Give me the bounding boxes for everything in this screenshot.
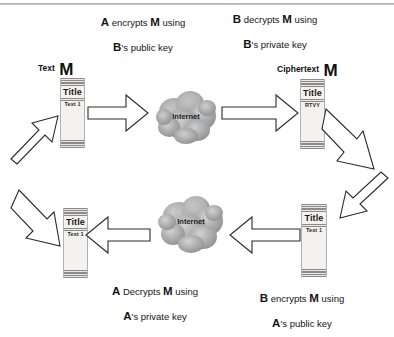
arrow-into-plaintext-doc (8, 104, 66, 164)
internet-cloud-label: Internet (155, 217, 227, 226)
arrow-receive-from-internet-top (222, 93, 300, 133)
internet-cloud-label: Internet (152, 112, 220, 121)
caption-b-decrypts-line1: B decrypts M using (205, 13, 345, 25)
arrow-send-to-internet-top (88, 93, 150, 133)
message-m: M (282, 13, 292, 25)
message-m: M (309, 292, 319, 304)
actor-a: A (123, 310, 131, 322)
caption-b-encrypts-line1: B encrypts M using (232, 292, 372, 304)
arrow-send-to-internet-bottom (230, 215, 302, 255)
caption-a-encrypts-line2: B's public key (78, 41, 208, 53)
doc-title: Title (303, 87, 322, 99)
label-ciphertext-kind: Ciphertext (277, 64, 319, 74)
caption-a-decrypts-line1: A Decrypts M using (85, 285, 225, 297)
label-plaintext-symbol: M (59, 60, 73, 79)
doc-title: Title (63, 86, 82, 98)
caption-b-encrypts-line2: A's public key (232, 317, 372, 329)
actor-a: A (101, 16, 109, 28)
caption-b-decrypts-line2: B's private key (205, 38, 345, 50)
arrow-receive-from-internet-bottom (86, 215, 152, 255)
internet-cloud-bottom: Internet (155, 192, 227, 258)
caption-a-encrypts-line1: A encrypts M using (78, 16, 208, 28)
message-m: M (150, 16, 160, 28)
internet-cloud-top: Internet (152, 86, 220, 150)
doc-rule (301, 144, 324, 149)
document-plaintext-returned: Title Text 1 (301, 204, 327, 277)
caption-a-encrypts: A encrypts M using B's public key (78, 16, 208, 53)
caption-a-decrypts-line2: A's private key (85, 310, 225, 322)
doc-rule (64, 273, 87, 278)
doc-body: RTVY (305, 102, 320, 108)
cryptography-diagram: A encrypts M using B's public key B decr… (0, 0, 394, 337)
top-rule-divider (0, 3, 394, 5)
caption-b-encrypts: B encrypts M using A's public key (232, 292, 372, 329)
actor-b: B (233, 13, 241, 25)
arrow-into-returned-doc (330, 176, 392, 238)
label-ciphertext-message: Ciphertext M (277, 61, 338, 81)
doc-body: Text 1 (64, 101, 80, 107)
label-ciphertext-symbol: M (324, 61, 338, 80)
actor-b: B (243, 38, 251, 50)
caption-b-decrypts: B decrypts M using B's private key (205, 13, 345, 50)
document-ciphertext-receiver: Title RTVY (300, 79, 325, 149)
actor-b: B (260, 292, 268, 304)
arrow-out-of-ciphertext-doc (324, 103, 386, 175)
label-plaintext-kind: Text (38, 63, 55, 73)
doc-title: Title (305, 212, 324, 224)
doc-rule (302, 272, 326, 277)
caption-a-decrypts: A Decrypts M using A's private key (85, 285, 225, 322)
doc-body: Text 1 (306, 227, 322, 233)
arrow-out-of-recovered-doc (14, 188, 72, 250)
message-m: M (163, 285, 173, 297)
label-plaintext-message: Text M (38, 60, 74, 80)
